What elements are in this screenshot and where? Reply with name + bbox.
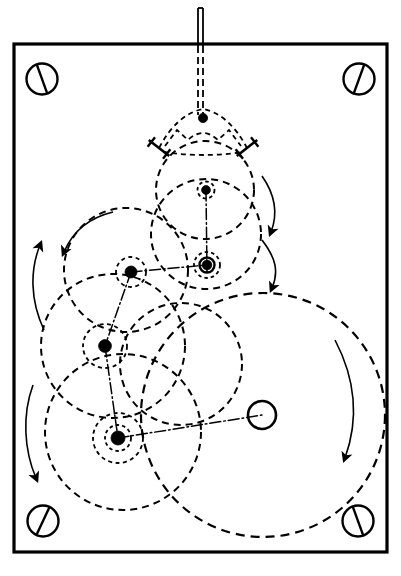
circle-output-large — [141, 293, 385, 537]
link-centrelines-layer — [105, 190, 262, 438]
pivot-b — [125, 266, 137, 278]
yoke-inner-web — [165, 130, 241, 146]
screw-top-right-slot — [354, 64, 365, 93]
motion-circles-layer — [41, 141, 385, 537]
motion-arrows-layer — [26, 176, 354, 478]
pivot-c — [99, 340, 112, 353]
arrow-right-outer — [335, 340, 353, 458]
arrow-right-mid — [262, 240, 276, 288]
link-c-to-d — [105, 346, 118, 438]
pivot-bearing-main — [202, 260, 212, 270]
arrow-upper-left-big — [64, 212, 113, 252]
pivot-yoke-apex — [198, 113, 207, 122]
mounting-screws-layer — [27, 64, 375, 537]
pivot-hub-upper — [202, 186, 211, 195]
screw-top-left-slot — [37, 64, 48, 93]
circle-lower-left-large — [45, 354, 201, 510]
pivot-joints-layer — [99, 113, 276, 445]
screw-bottom-left-slot — [36, 507, 49, 535]
input-shaft-layer — [198, 8, 203, 115]
link-hub-to-bearing — [206, 190, 207, 272]
kinematic-diagram-svg — [0, 0, 401, 576]
pivot-d — [111, 431, 125, 445]
arrow-left-lower — [26, 385, 36, 478]
screw-bottom-right-slot — [353, 506, 364, 535]
arrow-right-upper — [262, 176, 275, 232]
diagram-root — [0, 0, 401, 576]
arrow-left-upper — [33, 245, 44, 330]
